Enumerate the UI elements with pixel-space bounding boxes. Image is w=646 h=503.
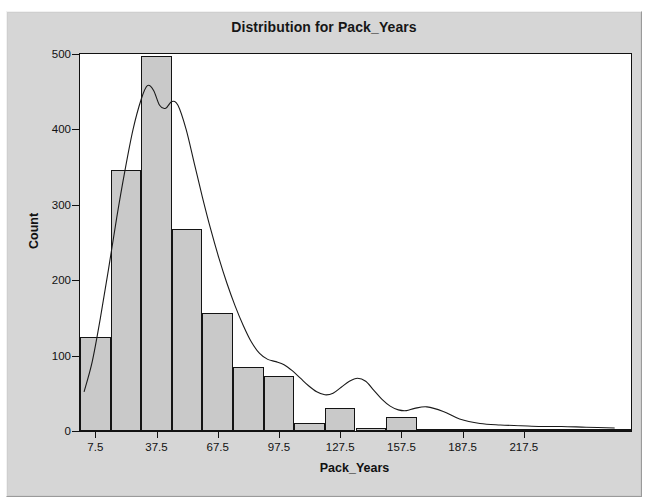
y-axis-tick-label: 100 xyxy=(52,350,71,362)
screenshot-root: Distribution for Pack_Years 010020030040… xyxy=(0,0,646,503)
y-axis-title: Count xyxy=(27,213,41,249)
y-axis-tick-mark xyxy=(72,54,79,55)
x-axis-tick-mark xyxy=(340,431,341,438)
plot-inner xyxy=(80,54,631,431)
y-axis-tick-label: 300 xyxy=(52,199,71,211)
x-axis-tick-mark xyxy=(95,431,96,438)
x-axis-tick-mark xyxy=(401,431,402,438)
x-axis-tick-label: 37.5 xyxy=(145,441,167,453)
x-axis-tick-mark xyxy=(463,431,464,438)
x-axis-title: Pack_Years xyxy=(79,461,630,475)
x-axis-tick-label: 157.5 xyxy=(387,441,416,453)
y-axis-tick-label: 400 xyxy=(52,123,71,135)
y-axis-tick-mark xyxy=(72,280,79,281)
x-axis-tick-label: 67.5 xyxy=(207,441,229,453)
density-curve-svg xyxy=(80,54,631,431)
y-axis-tick-mark xyxy=(72,431,79,432)
plot-area xyxy=(79,53,632,432)
density-curve-path xyxy=(84,85,615,428)
y-axis-tick-mark xyxy=(72,205,79,206)
x-axis-tick-label: 217.5 xyxy=(509,441,538,453)
x-axis-tick-label: 97.5 xyxy=(268,441,290,453)
x-axis-tick-mark xyxy=(524,431,525,438)
x-axis-tick-mark xyxy=(279,431,280,438)
x-axis-tick-label: 7.5 xyxy=(87,441,103,453)
y-axis-tick-label: 0 xyxy=(65,425,71,437)
x-axis-tick-mark xyxy=(218,431,219,438)
x-axis-tick-label: 127.5 xyxy=(326,441,355,453)
y-axis-tick-label: 500 xyxy=(52,48,71,60)
y-axis-tick-mark xyxy=(72,129,79,130)
y-axis-tick-label: 200 xyxy=(52,274,71,286)
x-axis: 7.537.567.597.5127.5157.5187.5217.5 Pack… xyxy=(79,431,632,477)
x-axis-tick-mark xyxy=(157,431,158,438)
y-axis-tick-mark xyxy=(72,356,79,357)
chart-title: Distribution for Pack_Years xyxy=(7,19,641,35)
clipped-top-text-strip xyxy=(0,0,646,10)
x-axis-tick-label: 187.5 xyxy=(448,441,477,453)
y-axis: 0100200300400500 Count xyxy=(31,53,79,432)
chart-window: Distribution for Pack_Years 010020030040… xyxy=(6,11,642,497)
